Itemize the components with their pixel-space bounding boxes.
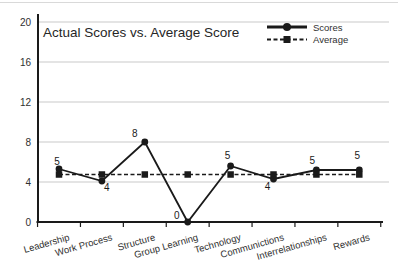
chart-title: Actual Scores vs. Average Score [43, 25, 239, 40]
scores-data-label: 5 [225, 150, 231, 161]
scores-data-label: 5 [54, 156, 60, 167]
category-labels-group: LeadershipWork ProcessStructureGroup Lea… [22, 231, 371, 262]
chart-canvas: 048121620 Actual Scores vs. Average Scor… [0, 0, 398, 270]
average-point-marker [227, 171, 234, 178]
y-tick-label: 20 [20, 17, 32, 28]
y-tick-labels-group: 048121620 [20, 17, 32, 228]
average-point-marker [184, 171, 191, 178]
axes-group [37, 14, 384, 227]
scores-data-label: 5 [310, 155, 316, 166]
scores-point-marker [227, 163, 234, 170]
average-point-marker [56, 171, 63, 178]
y-tick-label: 4 [25, 177, 31, 188]
y-tick-label: 16 [20, 57, 32, 68]
scores-point-marker [141, 139, 148, 146]
average-point-marker [313, 171, 320, 178]
scores-point-marker [184, 219, 191, 226]
average-point-marker [270, 171, 277, 178]
legend-scores-marker [283, 23, 291, 31]
average-point-marker [356, 171, 363, 178]
legend-scores-label: Scores [313, 22, 343, 33]
scores-data-label: 8 [132, 128, 138, 139]
y-tick-label: 8 [25, 137, 31, 148]
scores-data-label: 5 [355, 150, 361, 161]
scores-data-label: 0 [174, 210, 180, 221]
line-chart: 048121620 Actual Scores vs. Average Scor… [0, 0, 398, 270]
legend-average-marker [284, 36, 291, 43]
average-point-marker [99, 171, 106, 178]
scores-data-label: 4 [265, 181, 271, 192]
average-point-marker [142, 171, 149, 178]
gridlines-group [38, 22, 389, 182]
legend-average-label: Average [313, 34, 348, 45]
scores-data-label: 4 [104, 182, 110, 193]
category-label: Rewards [332, 231, 371, 252]
y-tick-label: 0 [25, 217, 31, 228]
legend: Scores Average [267, 22, 348, 46]
y-tick-label: 12 [20, 97, 32, 108]
